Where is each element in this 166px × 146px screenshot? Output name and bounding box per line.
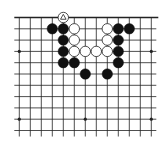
black-stone xyxy=(58,24,68,34)
black-stone xyxy=(113,46,123,56)
black-stone xyxy=(113,35,123,45)
star-point xyxy=(150,118,153,121)
white-stone xyxy=(91,46,101,56)
stones xyxy=(47,12,134,79)
white-stone xyxy=(102,35,112,45)
black-stone xyxy=(58,58,68,68)
black-stone xyxy=(80,69,90,79)
go-board xyxy=(0,0,166,146)
black-stone xyxy=(69,58,79,68)
white-stone xyxy=(102,46,112,56)
star-point xyxy=(150,50,153,53)
black-stone xyxy=(47,24,57,34)
black-stone xyxy=(58,35,68,45)
black-stone xyxy=(124,24,134,34)
white-stone xyxy=(69,35,79,45)
black-stone xyxy=(102,69,112,79)
black-stone xyxy=(58,46,68,56)
white-stone xyxy=(69,46,79,56)
white-stone xyxy=(69,24,79,34)
black-stone xyxy=(113,58,123,68)
white-stone xyxy=(102,24,112,34)
star-point xyxy=(18,118,21,121)
star-point xyxy=(18,50,21,53)
star-point xyxy=(84,118,87,121)
white-stone xyxy=(80,46,90,56)
black-stone xyxy=(113,24,123,34)
